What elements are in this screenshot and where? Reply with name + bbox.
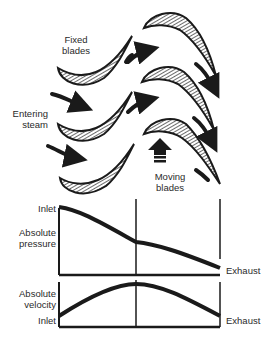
- entering-steam-label: Entering steam: [4, 108, 48, 130]
- fixed-blades-label-line2: blades: [62, 45, 90, 56]
- absolute-pressure-label-line1: Absolute: [6, 227, 56, 238]
- entering-steam-label-line2: steam: [4, 119, 48, 130]
- steam-arrows-in: [48, 50, 148, 158]
- steam-arrow-icon: [52, 94, 82, 106]
- pressure-inlet-label: Inlet: [20, 203, 56, 214]
- fixed-blade: [60, 144, 134, 193]
- pressure-chart: [59, 199, 220, 275]
- absolute-velocity-label-line2: velocity: [6, 299, 56, 310]
- moving-blades: [142, 13, 220, 184]
- steam-arrow-icon: [196, 170, 208, 180]
- fixed-blades: [58, 36, 134, 193]
- absolute-velocity-label-line1: Absolute: [6, 288, 56, 299]
- velocity-exhaust-label: Exhaust: [226, 315, 260, 326]
- absolute-pressure-label: Absolute pressure: [6, 227, 56, 249]
- steam-arrow-icon: [128, 100, 148, 112]
- fixed-blades-label-line1: Fixed: [62, 34, 90, 45]
- velocity-chart: [59, 280, 220, 327]
- fixed-blades-label: Fixed blades: [62, 34, 90, 56]
- moving-direction-arrow-icon: [148, 138, 172, 163]
- steam-arrow-icon: [48, 146, 76, 158]
- absolute-velocity-label: Absolute velocity: [6, 288, 56, 310]
- entering-steam-label-line1: Entering: [4, 108, 48, 119]
- moving-blades-label: Moving blades: [150, 171, 190, 193]
- pressure-exhaust-label: Exhaust: [226, 265, 260, 276]
- absolute-pressure-label-line2: pressure: [6, 238, 56, 249]
- velocity-curve: [59, 284, 220, 316]
- pressure-curve: [59, 207, 220, 268]
- velocity-inlet-label: Inlet: [20, 315, 56, 326]
- moving-blade: [144, 13, 216, 76]
- moving-blades-label-line1: Moving: [150, 171, 190, 182]
- moving-blades-label-line2: blades: [150, 182, 190, 193]
